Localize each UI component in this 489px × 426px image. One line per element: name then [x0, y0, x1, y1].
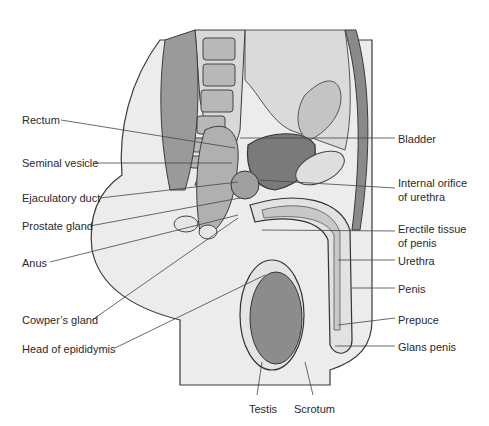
- label-scrotum: Scrotum: [294, 403, 335, 416]
- label-testis: Testis: [249, 403, 277, 416]
- label-penis: Penis: [398, 283, 426, 296]
- label-internal-orifice-line1: Internal orifice: [398, 177, 467, 190]
- label-cowpers-gland: Cowper’s gland: [22, 314, 98, 327]
- label-urethra: Urethra: [398, 255, 435, 268]
- anatomy-illustration: [0, 0, 489, 426]
- prostate: [231, 171, 259, 199]
- label-seminal-vesicle: Seminal vesicle: [22, 157, 98, 170]
- label-internal-orifice-line2: of urethra: [398, 191, 445, 204]
- testis: [250, 272, 302, 364]
- label-glans-penis: Glans penis: [398, 341, 456, 354]
- anatomy-diagram: Rectum Seminal vesicle Ejaculatory duct …: [0, 0, 489, 426]
- buttock-fold: [174, 216, 198, 232]
- anus: [199, 225, 217, 239]
- label-ejaculatory-duct: Ejaculatory duct: [22, 192, 100, 205]
- label-prostate-gland: Prostate gland: [22, 220, 93, 233]
- label-prepuce: Prepuce: [398, 314, 439, 327]
- label-head-of-epididymis: Head of epididymis: [22, 343, 116, 356]
- label-erectile-tissue-line1: Erectile tissue: [398, 223, 466, 236]
- label-erectile-tissue-line2: of penis: [398, 237, 437, 250]
- label-rectum: Rectum: [22, 114, 60, 127]
- label-anus: Anus: [22, 257, 47, 270]
- label-bladder: Bladder: [398, 133, 436, 146]
